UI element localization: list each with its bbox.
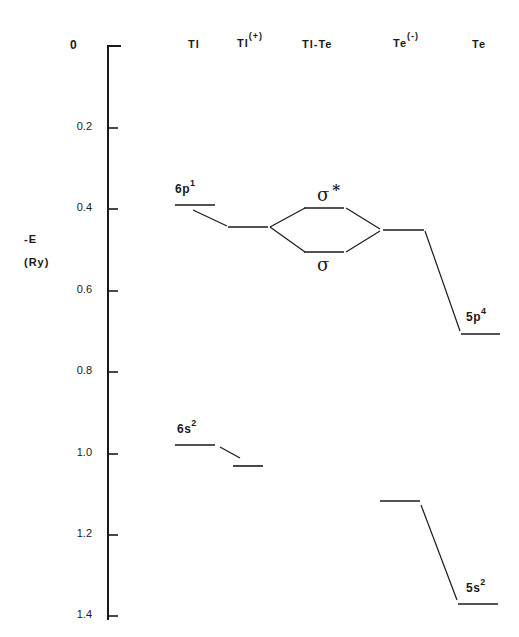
connector-tl-6s-to-cation [220,447,240,458]
connector-cation-to-sigma [270,227,305,252]
connector-tl-6p-to-cation [193,210,227,226]
connector-sigma-to-anion [346,231,380,252]
connector-anion-s-to-te-5s [421,505,457,600]
connector-sigma-star-to-anion [346,208,380,229]
energy-level-diagram [0,0,519,637]
connector-cation-to-sigma-star [270,208,305,227]
connector-anion-p-to-te-5p [425,231,460,331]
